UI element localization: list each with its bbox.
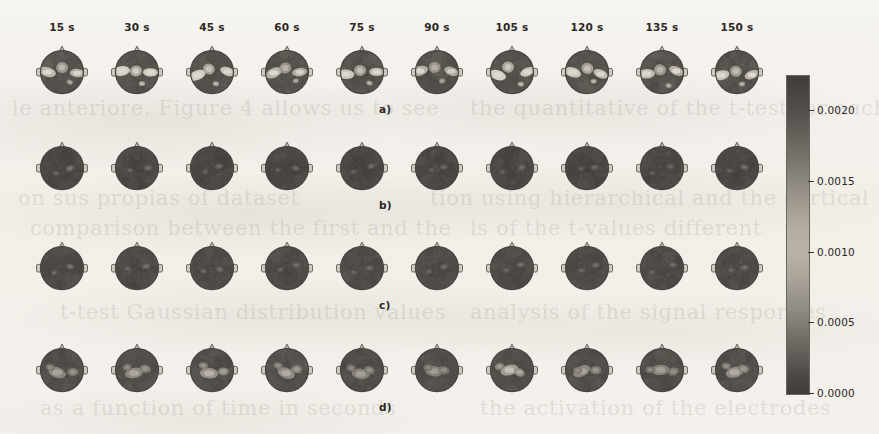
- topomap-a-60s: [261, 46, 313, 98]
- topomap-c-150s: [711, 242, 763, 294]
- topomap-b-75s: [336, 142, 388, 194]
- colorbar-tick-mark: [808, 322, 814, 323]
- row-panel-label-a: a): [379, 103, 391, 115]
- topomap-c-135s: [636, 242, 688, 294]
- colorbar-tick-mark: [808, 252, 814, 253]
- topomap-b-90s: [411, 142, 463, 194]
- column-time-label: 15 s: [32, 21, 92, 33]
- topomap-a-45s: [186, 46, 238, 98]
- column-time-label: 90 s: [407, 21, 467, 33]
- topomap-c-105s: [486, 242, 538, 294]
- colorbar: 0.00000.00050.00100.00150.0020: [786, 75, 810, 395]
- topomap-c-45s: [186, 242, 238, 294]
- row-panel-label-c: c): [379, 299, 390, 311]
- topomap-a-75s: [336, 46, 388, 98]
- topomap-a-120s: [561, 46, 613, 98]
- column-time-label: 150 s: [707, 21, 767, 33]
- topomap-b-15s: [36, 142, 88, 194]
- topomap-d-135s: [636, 344, 688, 396]
- colorbar-gradient: [786, 75, 810, 395]
- topomap-c-75s: [336, 242, 388, 294]
- topomap-d-105s: [486, 344, 538, 396]
- column-time-label: 135 s: [632, 21, 692, 33]
- column-time-label: 105 s: [482, 21, 542, 33]
- topomap-d-45s: [186, 344, 238, 396]
- column-time-label: 45 s: [182, 21, 242, 33]
- topomap-c-30s: [111, 242, 163, 294]
- column-time-label: 120 s: [557, 21, 617, 33]
- topomap-a-30s: [111, 46, 163, 98]
- row-panel-label-b: b): [379, 199, 392, 211]
- topomap-b-30s: [111, 142, 163, 194]
- colorbar-tick-mark: [808, 393, 814, 394]
- row-panel-label-d: d): [379, 401, 392, 413]
- topomap-d-150s: [711, 344, 763, 396]
- topomap-d-120s: [561, 344, 613, 396]
- topomap-b-105s: [486, 142, 538, 194]
- topomap-figure: 15 s30 s45 s60 s75 s90 s105 s120 s135 s1…: [0, 0, 879, 434]
- colorbar-tick-label: 0.0000: [817, 387, 855, 399]
- topomap-b-45s: [186, 142, 238, 194]
- topomap-c-120s: [561, 242, 613, 294]
- topomap-a-135s: [636, 46, 688, 98]
- topomap-d-15s: [36, 344, 88, 396]
- topomap-a-90s: [411, 46, 463, 98]
- topomap-a-15s: [36, 46, 88, 98]
- colorbar-tick-label: 0.0020: [817, 104, 855, 116]
- topomap-b-150s: [711, 142, 763, 194]
- topomap-c-15s: [36, 242, 88, 294]
- colorbar-tick-label: 0.0005: [817, 316, 855, 328]
- topomap-a-150s: [711, 46, 763, 98]
- colorbar-tick-label: 0.0010: [817, 246, 855, 258]
- colorbar-tick-mark: [808, 181, 814, 182]
- topomap-c-60s: [261, 242, 313, 294]
- topomap-b-120s: [561, 142, 613, 194]
- column-time-label: 75 s: [332, 21, 392, 33]
- column-time-label: 30 s: [107, 21, 167, 33]
- topomap-b-60s: [261, 142, 313, 194]
- colorbar-tick-label: 0.0015: [817, 175, 855, 187]
- topomap-b-135s: [636, 142, 688, 194]
- topomap-c-90s: [411, 242, 463, 294]
- colorbar-tick-mark: [808, 110, 814, 111]
- topomap-d-30s: [111, 344, 163, 396]
- topomap-d-60s: [261, 344, 313, 396]
- column-time-label: 60 s: [257, 21, 317, 33]
- topomap-a-105s: [486, 46, 538, 98]
- topomap-d-90s: [411, 344, 463, 396]
- topomap-d-75s: [336, 344, 388, 396]
